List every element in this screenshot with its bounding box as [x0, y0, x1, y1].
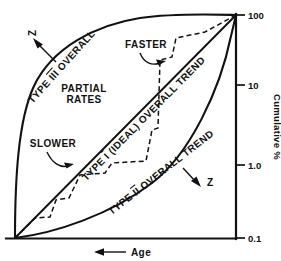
label-partial: PARTIAL — [61, 83, 106, 94]
annotation-z-lower-right: Z — [183, 168, 213, 188]
annotation-partial-rates: PARTIAL RATES — [61, 83, 106, 105]
slower-arrow-head-icon — [64, 163, 74, 169]
y-tick-label-100: 100 — [248, 10, 264, 21]
y-tick-label-01: 0.1 — [248, 233, 262, 244]
label-type-i-overall-trend: TYPE I (IDEAL) OVERALL TREND — [80, 54, 207, 183]
z-label-upper-left: Z — [27, 30, 38, 36]
label-slower: SLOWER — [30, 138, 77, 149]
label-type-ii-suffix: OVERALL TREND — [135, 128, 215, 194]
label-rates: RATES — [66, 94, 101, 105]
x-axis-title-group: Age — [94, 247, 151, 258]
x-axis-title: Age — [131, 247, 151, 258]
z-upper-arrow-shaft — [38, 44, 56, 62]
y-tick-label-1: 1.0 — [248, 160, 261, 171]
annotation-z-upper-left: Z — [27, 30, 56, 62]
z-label-lower-right: Z — [207, 177, 213, 188]
faster-arrow-shaft — [140, 53, 160, 64]
y-axis-title: Cumulative % — [272, 94, 281, 160]
annotation-slower: SLOWER — [30, 138, 77, 169]
y-tick-label-10: 10 — [248, 80, 259, 91]
label-faster: FASTER — [125, 39, 167, 50]
figure-container: 100 10 1.0 0.1 Cumulative % Age Z — [0, 0, 281, 261]
plot-canvas: 100 10 1.0 0.1 Cumulative % Age Z — [0, 0, 281, 261]
annotation-faster: FASTER — [125, 39, 167, 66]
faster-arrow-head-icon — [156, 60, 166, 66]
y-tick-labels: 100 10 1.0 0.1 — [248, 10, 264, 244]
age-arrow-head-icon — [94, 248, 104, 256]
